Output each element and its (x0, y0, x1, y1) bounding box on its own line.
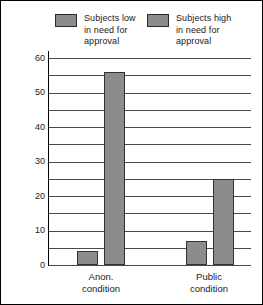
y-axis-tick-label: 10 (21, 226, 45, 235)
gridline (49, 110, 251, 111)
x-axis-label-public-condition: Public condition (164, 271, 254, 295)
bar (104, 72, 125, 265)
gridline (49, 75, 251, 76)
legend-label-subjects-low: Subjects low in need for approval (84, 13, 136, 48)
y-axis-tick-labels: 0102030405060 (17, 1, 45, 305)
y-axis-tick-label: 40 (21, 123, 45, 132)
bar (186, 241, 207, 265)
gridline (49, 144, 251, 145)
bar (77, 251, 98, 265)
legend-label-subjects-high: Subjects high in need for approval (176, 13, 231, 48)
legend-entry-subjects-low: Subjects low in need for approval (55, 13, 136, 48)
gridline (49, 58, 251, 59)
gridline (49, 265, 251, 266)
gridline (49, 127, 251, 128)
y-axis-tick-label: 60 (21, 54, 45, 63)
legend-swatch-subjects-high (147, 14, 169, 27)
y-axis-tick-label: 30 (21, 157, 45, 166)
gridline (49, 162, 251, 163)
y-axis-tick-label: 0 (21, 261, 45, 270)
legend-entry-subjects-high: Subjects high in need for approval (147, 13, 231, 48)
bar (213, 179, 234, 265)
y-axis-tick-label: 20 (21, 192, 45, 201)
y-axis-tick-label: 50 (21, 88, 45, 97)
plot-area (49, 58, 251, 265)
x-axis-label-anon-condition: Anon. condition (56, 271, 146, 295)
legend-swatch-subjects-low (55, 14, 77, 27)
bar-chart-figure: Subjects low in need for approval Subjec… (0, 0, 263, 305)
gridline (49, 93, 251, 94)
